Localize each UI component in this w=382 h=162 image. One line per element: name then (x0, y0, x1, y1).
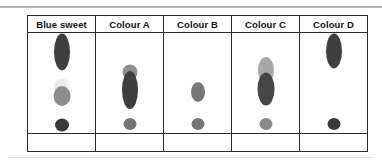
lane-colour-a (96, 33, 164, 133)
footer-cell-colour-d (300, 134, 367, 151)
chromatography-plate: Blue sweet Colour A Colour B Colour C Co… (27, 15, 368, 152)
top-divider-rule (0, 6, 382, 8)
footer-cell-colour-c (232, 134, 300, 151)
mid-grey-spot (191, 82, 205, 102)
lane-colour-b (164, 33, 232, 133)
lane-blue-sweet (28, 33, 96, 133)
lane-header-colour-d: Colour D (300, 16, 367, 32)
dark-tall-spot (54, 33, 70, 70)
baseline-grey-spot (259, 118, 272, 130)
dark-tall-spot (326, 33, 342, 68)
chromatogram-figure: Blue sweet Colour A Colour B Colour C Co… (0, 0, 382, 162)
dark-tall-spot (257, 73, 274, 106)
dark-tall-spot (122, 71, 138, 109)
lane-header-colour-a: Colour A (96, 16, 164, 32)
lanes-row (28, 33, 367, 134)
lane-header-row: Blue sweet Colour A Colour B Colour C Co… (28, 16, 367, 33)
baseline-grey-spot (123, 118, 136, 130)
footer-cell-blue-sweet (28, 134, 96, 151)
bottom-divider-rule (8, 157, 374, 158)
baseline-dark-spot (55, 119, 69, 132)
footer-cell-colour-b (164, 134, 232, 151)
footer-cell-colour-a (96, 134, 164, 151)
lane-colour-c (232, 33, 300, 133)
baseline-dark-spot (327, 118, 340, 130)
lane-colour-d (300, 33, 367, 133)
lane-header-blue-sweet: Blue sweet (28, 16, 96, 32)
baseline-grey-spot (191, 118, 204, 130)
lane-header-colour-c: Colour C (232, 16, 300, 32)
solvent-front-row (28, 134, 367, 151)
lane-header-colour-b: Colour B (164, 16, 232, 32)
mid-grey-spot (53, 86, 70, 106)
